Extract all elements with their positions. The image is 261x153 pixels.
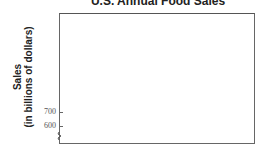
y-axis-label: Sales (in billions of dollars) [12, 12, 34, 142]
chart-title: U.S. Annual Food Sales [58, 0, 258, 8]
y-axis-label-line2: (in billions of dollars) [23, 12, 34, 142]
y-tick-label-700: 700 [34, 107, 56, 116]
y-tick-mark-700 [59, 112, 63, 113]
y-axis-label-line1: Sales [12, 12, 23, 142]
y-tick-mark-600 [59, 126, 63, 127]
plot-area [59, 13, 255, 144]
y-tick-label-600: 600 [34, 121, 56, 130]
axis-break-icon [55, 130, 65, 142]
